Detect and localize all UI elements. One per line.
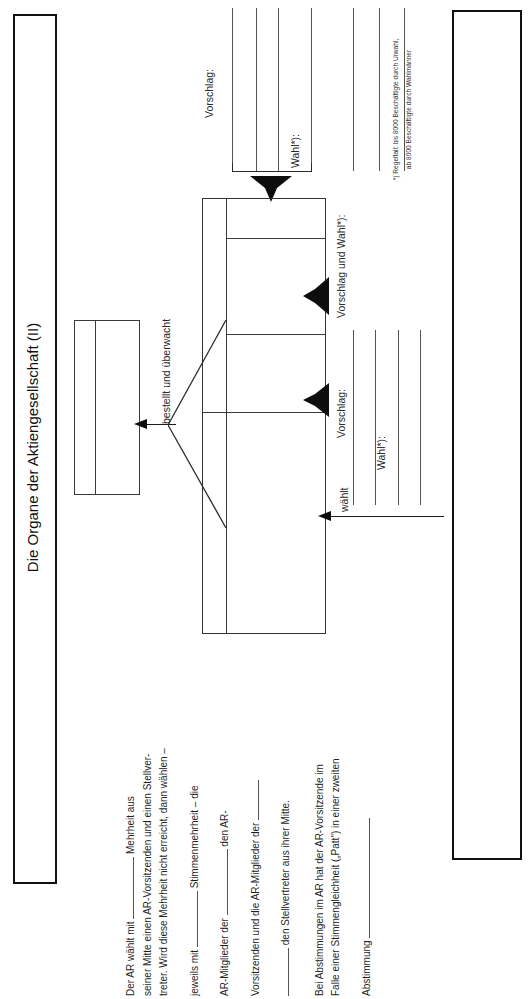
notes-line-1-b2: Mehrheit aus xyxy=(125,796,136,854)
notes-line-4-a2: jeweils mit xyxy=(189,950,200,996)
answer-box-vorstand-divider-2 xyxy=(95,320,96,495)
label-waehlt-text: wählt xyxy=(338,487,350,512)
label-top-wahl-text: Wahl*): xyxy=(289,134,301,168)
notes-line-7b2: den Stellvertreter aus ihrer Mitte. xyxy=(280,800,291,945)
blank-line-rt-3[interactable] xyxy=(404,8,405,171)
blank-line-rt-2[interactable] xyxy=(379,8,380,171)
blank-line-top-1b[interactable] xyxy=(232,8,233,171)
notes-line-7b: den Stellvertreter aus ihrer Mitte. xyxy=(277,700,295,996)
blank-line-rb-1[interactable] xyxy=(353,330,354,505)
notes-line-1-a2: Der AR wählt mit xyxy=(125,922,136,996)
notes-line-4-b2: Stimmenmehrheit – die xyxy=(189,785,200,888)
notes-line-10b: Abstimmung xyxy=(358,700,376,996)
label-vorschlag-und-wahl-2: Vorschlag und Wahl*): xyxy=(335,318,439,330)
notes-blank-3b[interactable] xyxy=(216,849,228,915)
notes-line-8b: Bei Abstimmungen im AR hat der AR-Vorsit… xyxy=(312,700,329,996)
label-vorschlag-mid-text: Vorschlag: xyxy=(335,389,347,438)
blank-line-top-3b[interactable] xyxy=(278,8,279,171)
notes-blank-4b[interactable] xyxy=(247,780,259,820)
answer-box-bottom-2[interactable] xyxy=(452,10,522,860)
arrow-vorschlag-und-wahl-2 xyxy=(303,277,329,319)
footnote-wrap-2: ab 8000 Beschäftigte durch Wahlmänner xyxy=(424,28,438,198)
notes-blank-2b[interactable] xyxy=(186,891,198,947)
arrow-waehlt-head xyxy=(318,511,331,521)
page-title-wrap: Die Organe der Aktiengesellschaft (II) xyxy=(13,14,53,880)
arrow-vorschlag-2 xyxy=(303,383,329,421)
label-waehlt-2: wählt xyxy=(338,512,363,524)
organs-chart-row-divider-1b xyxy=(226,238,326,239)
answer-box-vorstand-2[interactable] xyxy=(74,320,140,495)
notes-line-4b: jeweils mit Stimmenmehrheit – die xyxy=(186,700,204,996)
notes-line-10b2: Abstimmung xyxy=(361,940,372,996)
notes-line-5-a2: AR-Mitglieder der xyxy=(219,918,230,996)
bracket-top-stub-left xyxy=(232,163,233,172)
notes-line-6b: Vorsitzenden und die AR-Mitglieder der xyxy=(247,700,265,996)
notes-line-5b: AR-Mitglieder der den AR- xyxy=(216,700,234,996)
blank-line-top-2b[interactable] xyxy=(256,8,257,171)
label-vorschlag-und-wahl-text: Vorschlag und Wahl*): xyxy=(335,215,347,319)
label-top-wahl-2: Wahl*): xyxy=(289,168,323,180)
notes-line-2b: seiner Mitte einen AR-Vorsitzenden und e… xyxy=(140,700,157,996)
page-title-2: Die Organe der Aktiengesellschaft (II) xyxy=(25,322,42,571)
notes-line-1b: Der AR wählt mit Mehrheit aus xyxy=(122,700,140,996)
notes-line-6-a2: Vorsitzenden und die AR-Mitglieder der xyxy=(250,823,261,996)
notes-line-3b: treter. Wird diese Mehrheit nicht erreic… xyxy=(156,700,173,996)
connector-head xyxy=(134,419,147,429)
notes-blank-5b[interactable] xyxy=(277,948,289,996)
notes-line-5-b2: den AR- xyxy=(219,810,230,846)
label-bestellt-ueberwacht-2: bestellt und überwacht xyxy=(160,424,265,436)
label-right-wahl-2: Wahl*): xyxy=(375,470,409,482)
label-right-wahl-text: Wahl*): xyxy=(375,436,387,470)
notes-line-9b: Falle einer Stimmengleichheit („Patt") i… xyxy=(328,700,345,996)
organs-chart-row-divider-2b xyxy=(226,334,326,335)
label-top-vorschlag-2: Vorschlag: xyxy=(203,118,252,130)
footnote-line-1-2: *) Regelfall: bis 8000 Beschäftigte durc… xyxy=(392,39,399,180)
blank-line-top-4b[interactable] xyxy=(311,8,312,171)
label-top-vorschlag-text: Vorschlag: xyxy=(203,69,215,118)
notes-blank-1b[interactable] xyxy=(122,857,134,919)
blank-line-rb-4[interactable] xyxy=(420,330,421,505)
footnote-line-2-2: ab 8000 Beschäftigte durch Wahlmänner xyxy=(405,50,412,169)
notes-block-2: Der AR wählt mit Mehrheit aus seiner Mit… xyxy=(122,700,312,996)
label-bestellt-text: bestellt und überwacht xyxy=(160,319,172,424)
blank-line-rt-1[interactable] xyxy=(353,8,354,171)
notes-blank-6b[interactable] xyxy=(358,818,370,938)
